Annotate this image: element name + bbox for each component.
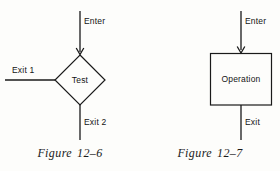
operation-node-label: Operation <box>210 74 272 84</box>
enter-label: Enter <box>245 16 266 26</box>
caption-number: 12–6 <box>77 146 103 160</box>
caption-number: 12–7 <box>217 146 243 160</box>
figure-pair-page: Test Enter Exit 1 Exit 2 Figure12–6 Oper… <box>0 0 280 171</box>
caption-word: Figure <box>37 146 72 160</box>
decision-node-label: Test <box>55 75 105 85</box>
figure-12-7: Operation Enter Exit Figure12–7 <box>140 0 280 171</box>
caption-word: Figure <box>177 146 212 160</box>
exit-1-label: Exit 1 <box>12 65 34 75</box>
figure-12-7-caption: Figure12–7 <box>140 146 280 161</box>
enter-label: Enter <box>84 16 105 26</box>
exit-label: Exit <box>245 117 260 127</box>
exit-2-label: Exit 2 <box>84 117 106 127</box>
figure-12-6-caption: Figure12–6 <box>0 146 140 161</box>
figure-12-6: Test Enter Exit 1 Exit 2 Figure12–6 <box>0 0 140 171</box>
